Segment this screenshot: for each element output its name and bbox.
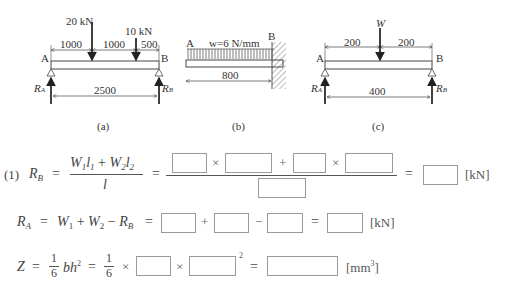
- eq3-times-2: ×: [176, 259, 183, 275]
- eq3-times-1: ×: [122, 259, 129, 275]
- fig-c-label-a: A: [316, 52, 324, 64]
- fig-a-caption: (a): [97, 120, 109, 132]
- eq1-answer-box-l2[interactable]: [345, 153, 393, 173]
- eq1-answer-box-w2[interactable]: [293, 153, 326, 173]
- figure-b-cantilever-beam: [186, 42, 286, 89]
- eq1-equals-3: =: [405, 166, 413, 182]
- fig-a-span: 2500: [94, 84, 116, 96]
- fig-b-label-a: A: [186, 37, 194, 49]
- fig-a-load-10kn: 10 kN: [125, 25, 152, 37]
- eq1-equals-1: =: [52, 166, 60, 182]
- fig-b-load: w=6 N/mm: [209, 37, 260, 49]
- eq2-plus: +: [201, 214, 208, 230]
- eq2-equals-3: =: [311, 214, 319, 230]
- fig-a-reaction-a: RA: [34, 82, 45, 94]
- eq1-equals-2: =: [152, 166, 160, 182]
- eq1-formula-numerator: W1l1 + W2l2: [70, 155, 134, 172]
- eq2-equals-2: =: [145, 214, 153, 230]
- fig-a-reaction-b: RB: [162, 82, 173, 94]
- eq2-formula: W1 + W2 − RB: [57, 214, 133, 231]
- eq3-frac2-den: 6: [106, 266, 112, 281]
- eq1-times-1: ×: [212, 155, 219, 171]
- eq1-times-2: ×: [332, 155, 339, 171]
- eq3-equals-1: =: [32, 259, 40, 275]
- eq1-number: (1): [4, 167, 19, 183]
- eq3-answer-box-h[interactable]: [189, 256, 236, 276]
- eq3-frac2-num: 1: [106, 251, 112, 266]
- fig-a-dim-3: 500: [141, 38, 158, 50]
- eq1-lhs: RB: [29, 166, 43, 183]
- fig-a-load-20kn: 20 kN: [66, 15, 93, 27]
- eq1-answer-box-l[interactable]: [258, 178, 306, 198]
- eq3-equals-3: =: [250, 259, 258, 275]
- eq3-square-exponent: 2: [239, 251, 243, 260]
- eq1-answer-box-rb[interactable]: [423, 165, 458, 185]
- eq2-answer-box-w2[interactable]: [214, 213, 249, 233]
- fig-a-dim-1: 1000: [60, 38, 82, 50]
- eq3-unit: [mm3]: [346, 259, 379, 276]
- eq1-formula-fraction-bar: [70, 174, 143, 175]
- fig-c-label-b: B: [436, 52, 443, 64]
- eq3-bh2: bh2: [63, 259, 81, 276]
- fig-b-length: 800: [222, 69, 239, 81]
- eq1-answer-box-l1[interactable]: [225, 153, 272, 173]
- eq1-fraction-bar: [166, 175, 397, 176]
- eq3-answer-box-b[interactable]: [136, 256, 171, 276]
- eq1-plus: +: [279, 155, 286, 171]
- eq2-answer-box-w1[interactable]: [161, 213, 196, 233]
- eq2-unit: [kN]: [370, 215, 395, 231]
- fig-c-span: 400: [369, 85, 386, 97]
- eq3-frac1-den: 6: [51, 266, 57, 281]
- fig-a-label-a: A: [41, 52, 49, 64]
- eq3-answer-box-z[interactable]: [267, 256, 338, 276]
- eq2-answer-box-ra[interactable]: [327, 213, 363, 233]
- eq2-answer-box-rb[interactable]: [267, 213, 303, 233]
- eq1-formula-denominator: l: [103, 177, 107, 193]
- fig-a-label-b: B: [161, 52, 168, 64]
- fig-c-reaction-a: RA: [311, 82, 322, 94]
- eq3-frac1-num: 1: [51, 251, 57, 266]
- fig-c-dim-2: 200: [398, 36, 415, 48]
- fig-c-load-w: W: [376, 17, 385, 29]
- fig-c-caption: (c): [372, 120, 384, 132]
- eq3-lhs: Z: [17, 259, 25, 275]
- eq1-unit: [kN]: [465, 167, 490, 183]
- fig-b-label-b: B: [268, 30, 275, 42]
- fig-b-caption: (b): [232, 120, 245, 132]
- eq2-lhs: RA: [17, 214, 31, 231]
- fig-a-dim-2: 1000: [103, 38, 125, 50]
- eq2-equals-1: =: [40, 214, 48, 230]
- eq1-answer-box-w1[interactable]: [172, 153, 207, 173]
- eq2-minus: −: [255, 214, 262, 230]
- fig-c-dim-1: 200: [344, 36, 361, 48]
- fig-c-reaction-b: RB: [436, 82, 447, 94]
- eq3-equals-2: =: [88, 259, 96, 275]
